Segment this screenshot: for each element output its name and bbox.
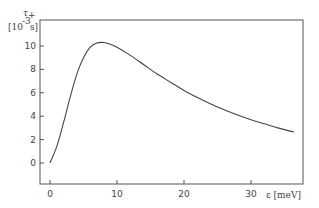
y-tick-label: 10: [25, 41, 37, 51]
y-axis-ticks: 0246810: [25, 41, 44, 168]
x-axis-ticks: 0102030: [47, 180, 257, 199]
y-axis-label: τ + [10 -3 s]: [8, 8, 38, 32]
x-tick-label: 10: [111, 189, 123, 199]
y-tick-label: 6: [30, 88, 36, 98]
y-tick-label: 0: [30, 158, 36, 168]
chart-plot: 0246810 0102030 τ + [10 -3 s] ε [meV]: [0, 0, 319, 208]
plot-frame: [40, 20, 303, 184]
y-tick-label: 4: [30, 111, 36, 121]
y-tick-label: 8: [30, 64, 36, 74]
x-tick-label: 20: [178, 189, 190, 199]
y-axis-unit-close: s]: [30, 22, 38, 32]
data-line: [50, 42, 294, 163]
x-axis-label: ε [meV]: [266, 190, 301, 200]
y-tick-label: 2: [30, 135, 36, 145]
x-tick-label: 0: [47, 189, 53, 199]
y-axis-unit-open: [10: [8, 22, 23, 32]
x-tick-label: 30: [245, 189, 257, 199]
